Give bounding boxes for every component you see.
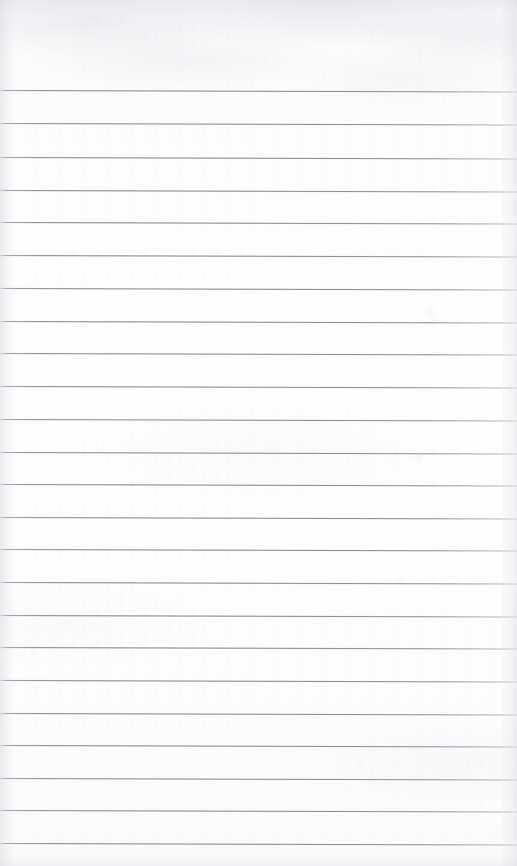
scanned-page [0,0,517,866]
page-edge-vignette [0,0,517,866]
blank-top-margin [0,0,517,90]
blank-bottom-margin [0,843,517,866]
